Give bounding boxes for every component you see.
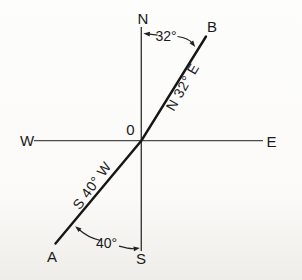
bearing-oa-label: S 40° W: [69, 158, 114, 212]
south-angle-value: 40°: [96, 235, 117, 251]
north-angle-value: 32°: [155, 28, 176, 44]
point-a-label: A: [47, 248, 57, 265]
north-angle-arc-right: [178, 37, 193, 44]
diagram-canvas: N S E W 0 B A 32° 40° N 32° E S 40° W: [0, 0, 302, 280]
north-angle-arrowhead-left: [143, 32, 150, 37]
bearing-diagram: N S E W 0 B A 32° 40° N 32° E S 40° W: [0, 0, 302, 280]
west-label: W: [20, 132, 35, 149]
south-angle-arc-right: [119, 246, 136, 249]
bearing-ob-label: N 32° E: [162, 60, 202, 113]
south-label: S: [136, 250, 146, 267]
east-label: E: [266, 133, 276, 150]
north-label: N: [138, 10, 149, 27]
origin-label: 0: [126, 121, 134, 138]
point-b-label: B: [207, 18, 217, 35]
